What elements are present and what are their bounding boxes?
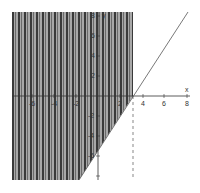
y-tick-label: -4: [88, 132, 94, 139]
x-tick-label: -4: [51, 100, 57, 107]
inequality-plot: -6 -4 -2 2 4 6 8 8 6 4 2 -2 -4 -6 x y: [0, 0, 200, 193]
x-tick-label: 6: [162, 100, 166, 107]
x-tick-label: -6: [29, 100, 35, 107]
y-tick-label: 6: [91, 32, 95, 39]
x-tick-label: 4: [141, 100, 145, 107]
x-axis-label: x: [185, 86, 189, 93]
y-tick-label: -2: [88, 112, 94, 119]
x-tick-label: 2: [118, 100, 122, 107]
y-tick-label: 2: [91, 72, 95, 79]
x-tick-label: 8: [185, 100, 189, 107]
y-tick-label: 4: [91, 52, 95, 59]
x-tick-label: -2: [73, 100, 79, 107]
y-tick-label: 8: [91, 12, 95, 19]
y-tick-label: -6: [88, 152, 94, 159]
y-axis-label: y: [102, 12, 106, 20]
